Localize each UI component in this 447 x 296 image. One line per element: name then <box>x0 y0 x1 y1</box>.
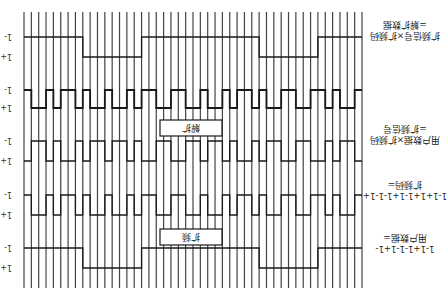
level-label-plus: 1+ <box>0 263 12 272</box>
despread-data-label-line1: 扩频信号×扩频码 <box>370 31 441 42</box>
spread-signal-label-line2: =扩频信号 <box>383 124 427 135</box>
level-label-minus: 1- <box>4 85 12 94</box>
level-label-minus: 1- <box>4 190 12 199</box>
level-label-plus: 1+ <box>0 52 12 61</box>
spread-spectrum-diagram: 解扩扩频 1-1+扩频信号×扩频码=解扩数据1-1+1-1+用户数据×扩频码=扩… <box>0 0 447 296</box>
time-grid <box>24 12 362 288</box>
level-label-minus: 1- <box>4 136 12 145</box>
spread-code-label-line1: 1-1+1+1-1+1-1-1+ <box>363 191 447 201</box>
level-label-plus: 1+ <box>0 210 12 219</box>
spread-box-label: 扩频 <box>182 232 200 243</box>
user-data-label-line1: 1-1+1-1-1+1- <box>376 244 435 254</box>
spread-code-label-line2: 扩频码= <box>388 180 423 191</box>
despread-box-label: 解扩 <box>182 123 200 134</box>
level-label-plus: 1+ <box>0 103 12 112</box>
row-labels: 1-1+扩频信号×扩频码=解扩数据1-1+1-1+用户数据×扩频码=扩频信号1-… <box>0 20 447 272</box>
operation-boxes: 解扩扩频 <box>160 120 222 245</box>
despread-data-label-line2: =解扩数据 <box>383 20 427 31</box>
level-label-plus: 1+ <box>0 156 12 165</box>
spread-signal-label-line1: 用户数据×扩频码 <box>370 135 441 146</box>
level-label-minus: 1- <box>4 32 12 41</box>
user-data-label-line2: 用户数据= <box>383 233 427 244</box>
level-label-minus: 1- <box>4 243 12 252</box>
